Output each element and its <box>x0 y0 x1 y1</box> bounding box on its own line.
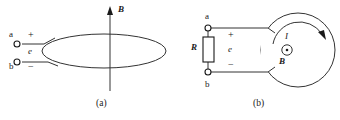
panel-b-caption: (b) <box>253 99 264 109</box>
terminal-node-b <box>14 59 20 65</box>
polarity-label-minus: − <box>28 62 34 72</box>
b-field-axis-arrow <box>107 6 113 91</box>
figure-panel-b: a + R e − b I B (b) <box>175 0 340 120</box>
physics-figure: a + e b − B (a) <box>0 0 340 120</box>
emf-label: e <box>228 45 232 54</box>
lead-wire-top <box>22 38 55 44</box>
loop-left-gap-mask <box>261 28 275 72</box>
terminal-node-b <box>205 69 211 75</box>
current-direction-arrow <box>273 22 326 44</box>
b-field-label: B <box>279 57 285 66</box>
emf-label: e <box>28 47 32 56</box>
panel-a-caption: (a) <box>96 99 107 109</box>
terminal-node-a <box>205 25 211 31</box>
polarity-label-plus: + <box>28 30 34 40</box>
terminal-label-a: a <box>205 12 209 21</box>
polarity-label-plus: + <box>228 30 234 40</box>
b-field-label: B <box>118 5 124 14</box>
current-label: I <box>285 32 288 41</box>
polarity-label-minus: − <box>228 60 234 70</box>
terminal-label-b: b <box>9 62 14 71</box>
coil-ellipse <box>42 34 166 68</box>
resistor-symbol <box>203 37 214 62</box>
b-field-out-of-page-icon <box>282 45 292 55</box>
terminal-label-b: b <box>205 80 210 89</box>
terminal-node-a <box>14 41 20 47</box>
figure-panel-a: a + e b − B (a) <box>0 0 175 120</box>
panel-a-drawing <box>0 0 175 120</box>
resistor-label: R <box>191 43 197 52</box>
terminal-label-a: a <box>9 30 13 39</box>
